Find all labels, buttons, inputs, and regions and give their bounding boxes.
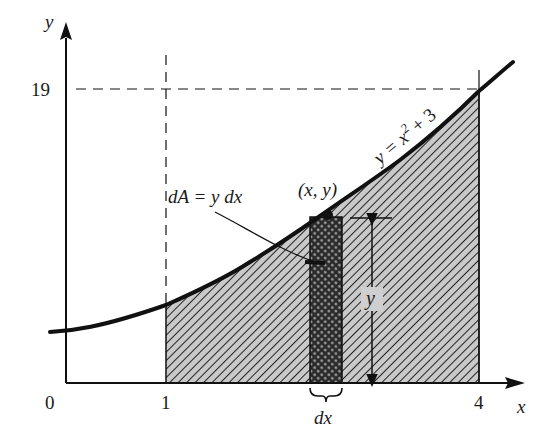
leader-arrow-head — [305, 262, 325, 263]
point-marker — [323, 210, 333, 220]
area-element-label: dA = y dx — [168, 186, 243, 207]
x-tick-1: 1 — [161, 392, 171, 413]
y-axis-label: y — [43, 11, 54, 32]
strip-width-label: dx — [314, 407, 333, 428]
y-tick-19: 19 — [31, 79, 50, 100]
area-under-curve-diagram: y (x, y) dA = y dx y x 0 1 4 19 dx y = x… — [0, 0, 551, 444]
dx-brace — [310, 388, 342, 402]
y-axis-arrow-icon — [60, 22, 72, 40]
origin-label: 0 — [45, 392, 55, 413]
x-axis-arrow-icon — [505, 377, 525, 389]
x-tick-4: 4 — [474, 392, 484, 413]
point-label: (x, y) — [298, 179, 337, 201]
strip-height-label: y — [364, 287, 375, 310]
x-axis-label: x — [516, 396, 526, 417]
area-element-strip — [310, 217, 342, 383]
